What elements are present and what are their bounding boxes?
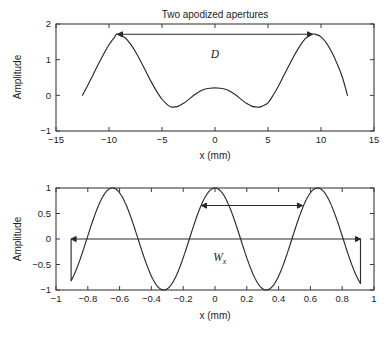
aperture-separation-head-right: [308, 32, 313, 37]
x-tick-label: −5: [157, 134, 168, 145]
x-tick-label: 0.2: [240, 293, 253, 304]
y-tick-label: −1: [40, 284, 51, 295]
x-tick-label: 0.4: [272, 293, 285, 304]
y-tick-label: 0: [46, 90, 51, 101]
full-aperture-span-head-left: [71, 236, 76, 241]
chart-panel-bottom: −1−0.8−0.6−0.4−0.200.20.40.60.81−1−0.500…: [0, 167, 391, 337]
x-tick-label: 10: [316, 134, 327, 145]
y-tick-label: 2: [46, 18, 51, 29]
wavelength-span-head-right: [297, 203, 302, 208]
x-tick-label: −1: [51, 293, 62, 304]
y-tick-label: −1: [40, 125, 51, 136]
x-tick-label: 0.6: [304, 293, 317, 304]
full-aperture-span-head-right: [355, 236, 360, 241]
x-tick-label: −0.2: [174, 293, 193, 304]
annotation-label-wx: Wx: [213, 251, 227, 266]
figure-container: Two apodized apertures −15−10−5051015−10…: [0, 0, 391, 337]
top-data-curve: [83, 34, 348, 107]
top-x-axis-label: x (mm): [199, 150, 230, 161]
x-tick-label: 1: [371, 293, 376, 304]
chart-panel-top: Two apodized apertures −15−10−5051015−10…: [0, 0, 391, 170]
page-title: Two apodized apertures: [162, 9, 269, 20]
x-tick-label: −0.4: [142, 293, 161, 304]
y-tick-label: 0.5: [38, 208, 51, 219]
x-tick-label: −0.6: [110, 293, 129, 304]
x-tick-label: 0.8: [336, 293, 349, 304]
bottom-annotation-arrows: [71, 203, 360, 242]
aperture-separation-head-left: [117, 32, 122, 37]
top-y-axis-label: Amplitude: [12, 54, 23, 99]
bottom-x-axis-label: x (mm): [199, 310, 230, 321]
x-tick-label: 0: [212, 293, 217, 304]
top-plot-frame: [56, 24, 374, 131]
top-annotation-arrow: [117, 32, 312, 37]
x-tick-label: 15: [369, 134, 380, 145]
bottom-y-axis-label: Amplitude: [12, 216, 23, 261]
y-tick-label: 1: [46, 54, 51, 65]
top-plot-svg: Two apodized apertures −15−10−5051015−10…: [0, 0, 391, 170]
annotation-label-d: D: [210, 48, 220, 60]
y-tick-label: 0: [46, 233, 51, 244]
x-tick-label: −10: [101, 134, 117, 145]
bottom-axis-ticks: −1−0.8−0.6−0.4−0.200.20.40.60.81−1−0.500…: [32, 182, 376, 304]
x-tick-label: 5: [265, 134, 270, 145]
y-tick-label: −0.5: [32, 259, 51, 270]
bottom-plot-svg: −1−0.8−0.6−0.4−0.200.20.40.60.81−1−0.500…: [0, 167, 391, 337]
x-tick-label: 0: [212, 134, 217, 145]
y-tick-label: 1: [46, 182, 51, 193]
top-axis-ticks: −15−10−5051015−1012: [40, 18, 379, 145]
x-tick-label: −0.8: [78, 293, 97, 304]
